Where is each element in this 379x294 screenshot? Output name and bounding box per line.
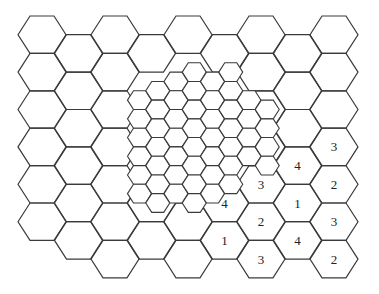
small-hex-cell <box>255 156 279 175</box>
small-hex-cell <box>255 138 279 157</box>
cell-number-label: 2 <box>331 252 338 267</box>
cell-number-label: 4 <box>294 233 301 248</box>
cell-number-label: 4 <box>294 158 301 173</box>
cell-number-label: 4 <box>221 196 228 211</box>
cell-number-label: 1 <box>294 196 301 211</box>
small-hex-cell <box>255 100 279 119</box>
cell-number-label: 2 <box>258 214 265 229</box>
cell-number-label: 3 <box>258 252 265 267</box>
cell-number-label: 3 <box>331 139 338 154</box>
refined-small-hex-layer <box>128 63 280 213</box>
small-hex-cell <box>255 119 279 138</box>
cell-number-label: 1 <box>221 233 228 248</box>
cell-number-label: 3 <box>331 214 338 229</box>
cell-number-label: 2 <box>331 177 338 192</box>
hex-grid-diagram: 413234143232 <box>0 0 379 294</box>
small-hex-cell <box>219 63 243 82</box>
small-hex-cell <box>219 175 243 194</box>
cell-number-label: 3 <box>258 177 265 192</box>
